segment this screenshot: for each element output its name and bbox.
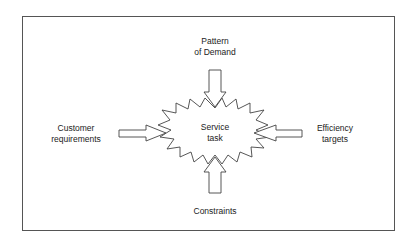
label-line: Pattern xyxy=(180,36,250,47)
label-line: Constraints xyxy=(175,206,255,217)
label-line: task xyxy=(180,133,250,144)
label-line: targets xyxy=(300,134,370,145)
label-line: of Demand xyxy=(180,47,250,58)
label-line: Efficiency xyxy=(300,123,370,134)
customer-requirements-label: Customer requirements xyxy=(36,123,116,144)
label-line: Customer xyxy=(36,123,116,134)
constraints-label: Constraints xyxy=(175,206,255,217)
service-task-label: Service task xyxy=(180,122,250,143)
label-line: requirements xyxy=(36,134,116,145)
pattern-of-demand-label: Pattern of Demand xyxy=(180,36,250,57)
label-line: Service xyxy=(180,122,250,133)
arrow-right-icon xyxy=(119,125,166,141)
efficiency-targets-label: Efficiency targets xyxy=(300,123,370,144)
